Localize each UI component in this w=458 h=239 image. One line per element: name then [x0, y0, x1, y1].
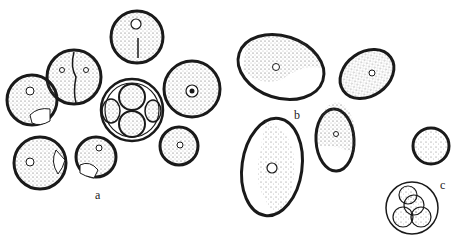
panel-label-a: a — [95, 188, 100, 203]
cell-drawings — [0, 0, 458, 239]
panel-label-b: b — [294, 108, 300, 123]
panel-label-c: c — [440, 178, 445, 193]
panel-a-cells — [7, 11, 220, 189]
panel-b-cells — [230, 24, 404, 220]
cell-illustration-figure: a b c — [0, 0, 458, 239]
